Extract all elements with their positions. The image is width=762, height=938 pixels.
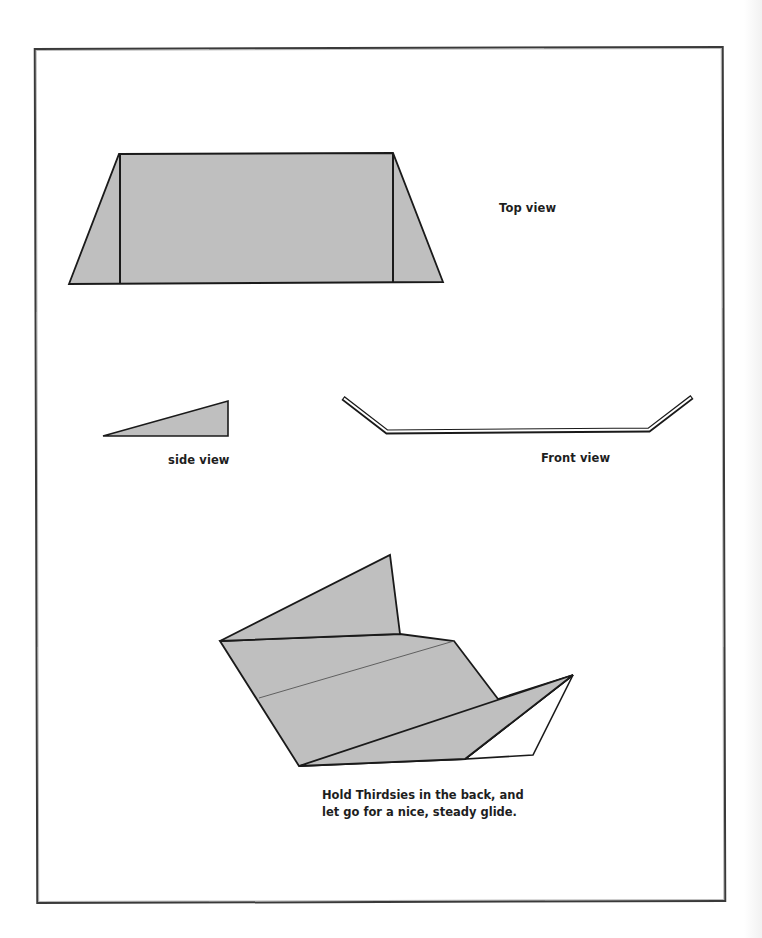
front-view-diagram xyxy=(343,397,692,432)
caption-line-2: let go for a nice, steady glide. xyxy=(322,804,524,821)
caption-line-1: Hold Thirdsies in the back, and xyxy=(322,787,524,804)
top-view-label: Top view xyxy=(499,201,556,215)
perspective-view-caption: Hold Thirdsies in the back, and let go f… xyxy=(322,787,524,821)
front-view-outline-outer xyxy=(343,397,692,432)
plane-upper-wing xyxy=(220,555,400,641)
side-view-triangle xyxy=(103,401,228,436)
front-view-outline-inner xyxy=(344,398,691,432)
perspective-view-diagram xyxy=(220,555,573,766)
top-view-wing-shape xyxy=(69,153,443,284)
side-view-diagram xyxy=(103,401,228,436)
side-view-label: side view xyxy=(168,453,230,467)
front-view-label: Front view xyxy=(541,451,610,465)
top-view-diagram xyxy=(69,153,443,284)
